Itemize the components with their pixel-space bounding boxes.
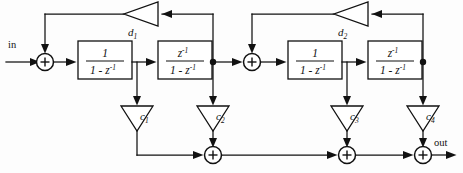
wire-block1-to-block2: [132, 58, 157, 106]
output-wire: [432, 151, 457, 159]
block-integrator-2: 1 1 - z-1: [288, 41, 342, 79]
block-delay-integrator-2: z-1 1 - z-1: [368, 41, 422, 79]
block-diagram-canvas: 1 1 - z-1 z-1 1 - z-1: [0, 0, 463, 173]
feedback-drop-1: [41, 14, 49, 54]
gain-triangle-d1: [124, 2, 158, 26]
output-label: out: [434, 137, 448, 148]
block1-numerator: 1: [102, 47, 108, 59]
wire-sum2-to-block3: [261, 58, 287, 66]
sum-node-output-2: [339, 147, 356, 164]
sum-node-input-2: [244, 54, 261, 71]
wire-sum1-to-block1: [54, 58, 77, 66]
block-integrator-1: 1 1 - z-1: [78, 41, 132, 79]
wire-c3-to-sum: [343, 131, 351, 148]
block3-denominator: 1 - z: [300, 64, 320, 76]
sum-node-input-1: [37, 54, 54, 71]
signal-flow-svg: 1 1 - z-1 z-1 1 - z-1: [0, 0, 463, 173]
wire-sum-chain-bottom: [222, 151, 414, 159]
sum-node-output-1: [205, 147, 222, 164]
wire-c4-to-sum: [419, 131, 427, 148]
wire-block3-to-block4: [342, 58, 367, 106]
block2-numerator-exp: -1: [182, 46, 188, 55]
block-delay-integrator-1: z-1 1 - z-1: [158, 41, 212, 79]
block4-numerator-exp: -1: [392, 46, 398, 55]
gain-label-d1: d1: [128, 26, 137, 41]
block4-denominator: 1 - z: [380, 64, 400, 76]
block2-denominator-exp: -1: [190, 63, 196, 72]
block2-denominator: 1 - z: [170, 64, 190, 76]
block3-denominator-exp: -1: [320, 63, 326, 72]
wire-c2-to-sum: [209, 131, 217, 148]
input-label: in: [8, 39, 17, 50]
block1-denominator: 1 - z: [90, 64, 110, 76]
block1-denominator-exp: -1: [110, 63, 116, 72]
gain-triangle-d2: [334, 2, 368, 26]
junction-section1-out: [209, 14, 243, 106]
wire-c1-to-sum: [137, 131, 204, 159]
block4-denominator-exp: -1: [400, 63, 406, 72]
input-wire: [6, 58, 40, 66]
block3-numerator: 1: [312, 47, 318, 59]
sum-node-output-3: [415, 147, 432, 164]
gain-label-d2: d2: [338, 26, 348, 41]
feedback-drop-2: [248, 14, 256, 54]
